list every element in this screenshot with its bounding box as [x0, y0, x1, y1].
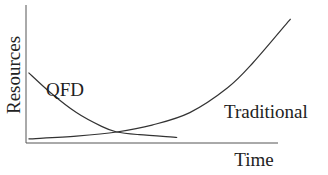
y-axis-label: Resources	[3, 36, 24, 114]
qfd-series-label: QFD	[46, 79, 84, 100]
resources-vs-time-diagram: Resources Time QFD Traditional	[0, 0, 328, 175]
x-axis-label: Time	[234, 149, 273, 170]
traditional-series-label: Traditional	[224, 101, 308, 122]
